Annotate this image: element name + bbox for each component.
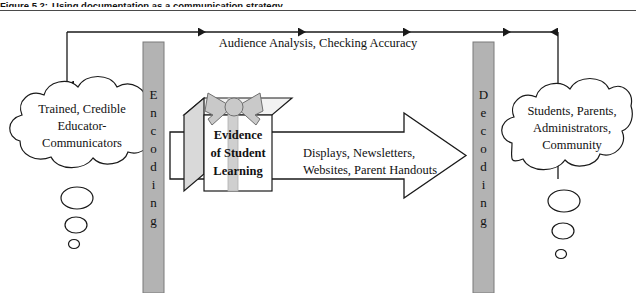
message-line-3: Learning: [213, 164, 263, 178]
receiver-line-1: Students, Parents,: [527, 104, 616, 118]
encoding-bar: E n c o d i n g: [143, 42, 164, 293]
encoding-letter-1: n: [150, 105, 157, 120]
decoding-letter-0: D: [479, 87, 488, 102]
figure-caption: Figure 5.2: Using documentation as a com…: [0, 0, 636, 7]
encoding-letter-5: i: [152, 177, 156, 192]
decoding-letter-6: n: [480, 195, 487, 210]
encoding-letter-0: E: [150, 87, 158, 102]
receiver-bubble-medium: [552, 223, 574, 239]
feedback-label: Audience Analysis, Checking Accuracy: [219, 36, 418, 50]
sender-line-3: Communicators: [42, 136, 122, 150]
encoding-letter-6: n: [150, 195, 157, 210]
message-line-1: Evidence: [214, 128, 263, 142]
decoding-bar: D e c o d i n g: [473, 42, 494, 293]
figure-container: Figure 5.2: Using documentation as a com…: [0, 0, 636, 293]
sender-bubble-small: [69, 240, 80, 249]
sender-bubble-medium: [65, 217, 87, 233]
message-line-2: of Student: [210, 146, 266, 160]
decoding-letter-4: d: [480, 159, 487, 174]
gift-box-left-side: [184, 98, 204, 191]
decoding-letter-3: o: [480, 141, 487, 156]
gift-bow-knot: [225, 98, 243, 116]
sender-bubble-large: [61, 187, 93, 209]
sender-line-1: Trained, Credible: [38, 102, 126, 116]
diagram-canvas: Audience Analysis, Checking Accuracy Tra…: [0, 11, 636, 293]
decoding-letter-1: e: [481, 105, 487, 120]
decoding-letter-7: g: [480, 213, 487, 228]
receiver-bubble-small: [556, 250, 567, 259]
decoding-letter-2: c: [481, 123, 487, 138]
receiver-line-3: Community: [542, 138, 602, 152]
decoding-letter-5: i: [482, 177, 486, 192]
encoding-letter-3: o: [150, 141, 157, 156]
figure-caption-text: Using documentation as a communication s…: [52, 0, 285, 7]
sender-line-2: Educator-: [57, 119, 106, 133]
channel-label-line-1: Displays, Newsletters,: [303, 146, 415, 160]
channel-label-line-2: Websites, Parent Handouts: [303, 163, 437, 177]
encoding-letter-7: g: [150, 213, 157, 228]
receiver-cloud: Students, Parents, Administrators, Commu…: [502, 79, 633, 259]
receiver-bubble-large: [548, 190, 580, 212]
figure-label: Figure 5.2:: [0, 0, 48, 7]
sender-cloud: Trained, Credible Educator- Communicator…: [10, 77, 158, 249]
encoding-letter-4: d: [150, 159, 157, 174]
encoding-letter-2: c: [151, 123, 157, 138]
receiver-line-2: Administrators,: [533, 121, 611, 135]
